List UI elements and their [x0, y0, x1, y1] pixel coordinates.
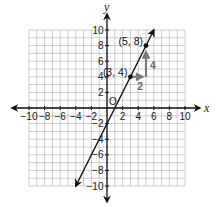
- data-point: [144, 43, 149, 48]
- y-tick-label: 2: [98, 87, 104, 98]
- run-label: 2: [137, 80, 143, 92]
- x-tick-label: 6: [151, 111, 157, 122]
- data-point: [128, 74, 133, 79]
- point-label: (3, 4): [103, 66, 128, 78]
- x-tick-label: −6: [54, 111, 66, 122]
- coordinate-plane-chart: xy −10−8−6−4−2246810−10−8−6−4−2246810O 2…: [0, 0, 217, 207]
- x-tick-label: −4: [70, 111, 82, 122]
- x-tick-label: −10: [21, 111, 38, 122]
- point-label: (5, 8): [118, 35, 143, 47]
- x-tick-label: 2: [120, 111, 126, 122]
- x-tick-label: −8: [39, 111, 51, 122]
- y-tick-label: 10: [92, 25, 104, 36]
- y-tick-label: −2: [92, 118, 104, 129]
- x-tick-label: 10: [179, 111, 191, 122]
- x-axis-label: x: [203, 101, 210, 115]
- rise-label: 4: [150, 59, 156, 71]
- x-tick-label: 8: [167, 111, 173, 122]
- slope-annotations: 24: [130, 52, 156, 92]
- data-points: (3, 4)(5, 8): [103, 35, 149, 80]
- y-tick-label: −10: [87, 181, 104, 192]
- y-tick-label: 8: [98, 40, 104, 51]
- x-tick-label: 4: [135, 111, 141, 122]
- y-axis-label: y: [103, 0, 110, 14]
- y-tick-label: −8: [92, 165, 104, 176]
